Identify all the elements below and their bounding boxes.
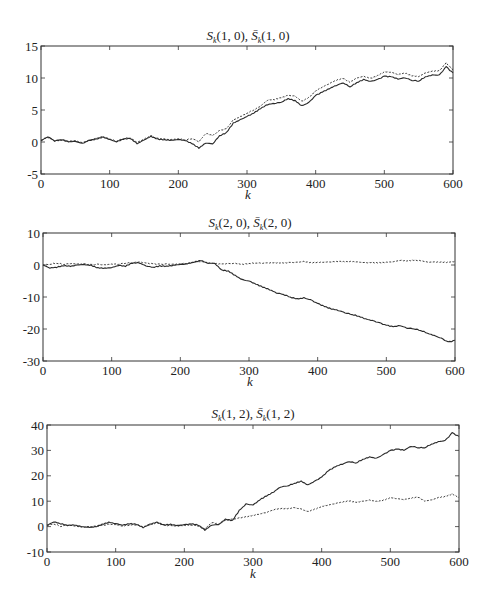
series-line-solid (43, 261, 455, 342)
y-tick-label: 30 (31, 443, 44, 458)
y-tick-label: 20 (31, 468, 44, 483)
axes-frame (43, 233, 455, 361)
plot-area: 0100200300400500600-30-20-10010 (23, 226, 465, 379)
y-tick-label: 0 (38, 519, 45, 534)
x-axis-label: k (247, 374, 253, 389)
x-tick-label: 500 (381, 554, 401, 569)
plot-area: 0100200300400500600-10010203040 (27, 418, 469, 570)
x-tick-label: 100 (100, 176, 120, 191)
y-tick-label: -10 (27, 545, 44, 560)
series-line-dashed (47, 494, 459, 529)
series-line-dashed (43, 260, 455, 265)
x-tick-label: 0 (44, 554, 51, 569)
y-tick-label: 15 (25, 39, 38, 54)
series-line-dashed (41, 63, 453, 143)
y-tick-label: 10 (31, 494, 44, 509)
y-tick-label: -10 (23, 290, 40, 305)
axes-frame (41, 46, 453, 174)
chart-title: Sk(2, 0), S̄k(2, 0) (209, 215, 292, 232)
x-axis-label: k (250, 566, 256, 581)
x-tick-label: 400 (306, 176, 326, 191)
x-tick-label: 200 (175, 554, 195, 569)
y-tick-label: -20 (23, 322, 40, 337)
x-axis-label: k (245, 187, 251, 202)
y-tick-label: -30 (23, 354, 40, 369)
axes-frame (47, 425, 459, 552)
x-tick-label: 0 (40, 363, 47, 378)
cropped-top-text (0, 0, 488, 6)
x-tick-label: 400 (308, 363, 328, 378)
x-tick-label: 400 (312, 554, 332, 569)
chart-title: Sk(1, 2), S̄k(1, 2) (212, 406, 295, 423)
x-tick-label: 600 (445, 363, 465, 378)
x-tick-label: 200 (171, 363, 191, 378)
y-tick-label: 0 (32, 135, 39, 150)
chart-title: Sk(1, 0), S̄k(1, 0) (207, 28, 290, 45)
y-tick-label: -5 (27, 167, 38, 182)
chart-panel-2: Sk(2, 0), S̄k(2, 0) 0100200300400500600-… (0, 205, 488, 395)
y-tick-label: 10 (27, 226, 40, 241)
x-tick-label: 100 (106, 554, 126, 569)
figure: Sk(1, 0), S̄k(1, 0) 0100200300400500600-… (0, 0, 488, 594)
y-tick-label: 5 (32, 103, 39, 118)
x-tick-label: 500 (377, 363, 397, 378)
x-tick-label: 100 (102, 363, 122, 378)
series-line-solid (41, 67, 453, 149)
y-tick-label: 10 (25, 71, 38, 86)
chart-panel-3: Sk(1, 2), S̄k(1, 2) 0100200300400500600-… (0, 398, 488, 594)
x-tick-label: 600 (443, 176, 463, 191)
x-tick-label: 0 (38, 176, 45, 191)
y-tick-label: 0 (34, 258, 41, 273)
x-tick-label: 500 (375, 176, 395, 191)
x-tick-label: 600 (449, 554, 469, 569)
y-tick-label: 40 (31, 418, 44, 433)
chart-panel-1: Sk(1, 0), S̄k(1, 0) 0100200300400500600-… (0, 20, 488, 202)
series-line-solid (47, 433, 459, 531)
x-tick-label: 200 (169, 176, 189, 191)
plot-area: 0100200300400500600-5051015 (25, 39, 463, 192)
